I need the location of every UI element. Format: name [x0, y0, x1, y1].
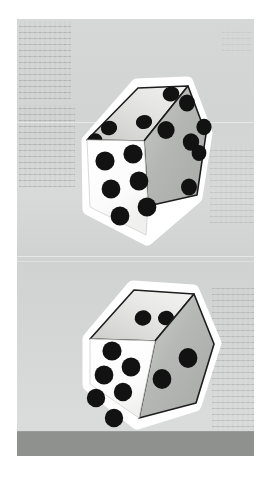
pip	[138, 198, 157, 217]
pip	[105, 409, 123, 427]
pip	[102, 180, 121, 199]
pip	[114, 383, 132, 401]
pip	[95, 151, 114, 170]
background-text-texture-right-top	[222, 27, 252, 51]
pip	[102, 341, 121, 360]
upper-die-right-face-pips-extra	[196, 119, 211, 135]
pip	[181, 178, 197, 195]
lower-die	[59, 255, 239, 445]
pip	[122, 358, 141, 377]
pip	[179, 94, 195, 111]
pip	[153, 369, 172, 389]
upper-die	[47, 49, 227, 249]
floor-shadow-band	[17, 431, 254, 456]
photograph	[17, 19, 254, 456]
pip	[192, 145, 207, 161]
pip	[157, 121, 174, 139]
pip	[123, 144, 142, 163]
pip	[196, 119, 211, 135]
photo-canvas	[0, 0, 272, 477]
pip	[87, 389, 105, 407]
pip	[111, 207, 130, 226]
pip	[130, 172, 149, 191]
pip	[95, 366, 114, 385]
pip	[179, 348, 198, 368]
